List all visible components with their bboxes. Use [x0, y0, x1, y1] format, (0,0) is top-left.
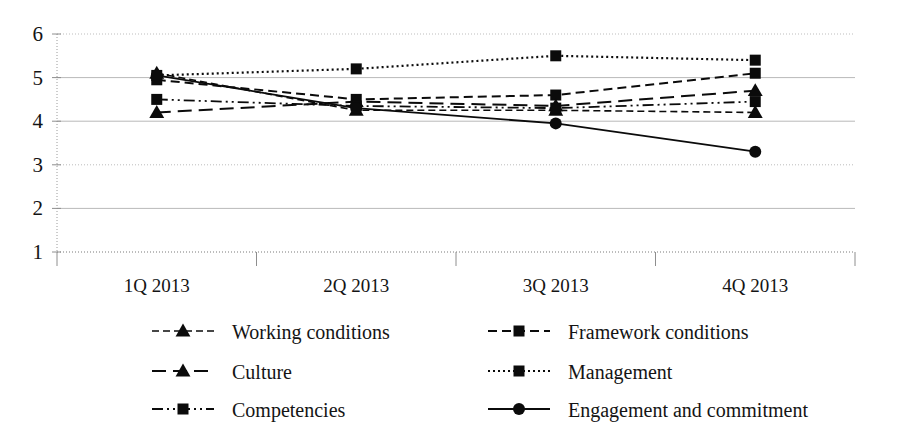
legend-marker-competencies	[178, 404, 189, 415]
data-point-engagement-and-commitment-2	[550, 117, 562, 129]
x-axis-label-1q-2013: 1Q 2013	[124, 275, 190, 296]
legend-label-working-conditions: Working conditions	[232, 321, 390, 344]
data-point-competencies-3	[750, 96, 761, 107]
y-axis-label-1: 1	[33, 240, 44, 264]
y-axis-label-4: 4	[33, 109, 44, 133]
data-point-management-2	[550, 50, 561, 61]
data-point-engagement-and-commitment-0	[151, 69, 163, 81]
x-axis-label-2q-2013: 2Q 2013	[323, 275, 389, 296]
legend-label-framework-conditions: Framework conditions	[568, 321, 749, 343]
legend-label-competencies: Competencies	[232, 399, 346, 422]
data-point-management-3	[750, 55, 761, 66]
data-point-engagement-and-commitment-1	[350, 102, 362, 114]
y-axis-label-6: 6	[33, 22, 44, 46]
legend-marker-engagement-and-commitment	[513, 403, 525, 415]
data-point-framework-conditions-3	[750, 68, 761, 79]
legend-label-culture: Culture	[232, 361, 292, 383]
x-axis-label-4q-2013: 4Q 2013	[722, 275, 788, 296]
y-axis-label-2: 2	[33, 196, 44, 220]
data-point-competencies-0	[151, 94, 162, 105]
legend-marker-framework-conditions	[514, 326, 525, 337]
chart-background	[0, 0, 900, 437]
data-point-engagement-and-commitment-3	[749, 146, 761, 158]
legend-label-management: Management	[568, 361, 673, 384]
x-axis-label-3q-2013: 3Q 2013	[523, 275, 589, 296]
data-point-management-1	[351, 63, 362, 74]
y-axis-label-5: 5	[33, 66, 44, 90]
line-chart: 123456 1Q 20132Q 20133Q 20134Q 2013 Work…	[0, 0, 900, 437]
data-point-competencies-2	[550, 103, 561, 114]
legend-marker-management	[514, 366, 525, 377]
y-axis-label-3: 3	[33, 153, 44, 177]
legend-label-engagement-and-commitment: Engagement and commitment	[568, 399, 808, 422]
chart-container: 123456 1Q 20132Q 20133Q 20134Q 2013 Work…	[0, 0, 900, 437]
